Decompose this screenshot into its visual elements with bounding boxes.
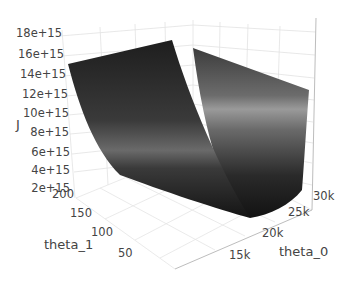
y-axis-tick: 100 xyxy=(91,227,113,239)
x-axis-tick: 25k xyxy=(288,207,309,219)
y-axis-tick: 200 xyxy=(52,189,74,201)
z-axis-tick: 6e+15 xyxy=(10,147,70,159)
z-axis-tick: 14e+15 xyxy=(6,69,66,81)
x-axis-label: theta_0 xyxy=(279,245,328,258)
y-axis-tick: 50 xyxy=(118,248,133,260)
y-axis-label: theta_1 xyxy=(44,238,93,251)
x-axis-tick: 20k xyxy=(262,228,283,240)
z-axis-tick: 16e+15 xyxy=(4,49,64,61)
x-axis-tick: 15k xyxy=(229,250,250,262)
z-axis-tick: 4e+15 xyxy=(10,165,70,177)
y-axis-tick: 150 xyxy=(70,208,92,220)
z-axis-tick: 12e+15 xyxy=(8,89,68,101)
z-axis-tick: 8e+15 xyxy=(9,127,69,139)
z-axis-tick: 10e+15 xyxy=(9,108,69,120)
z-axis-tick: 18e+15 xyxy=(2,28,62,40)
x-axis-tick: 30k xyxy=(313,191,334,203)
